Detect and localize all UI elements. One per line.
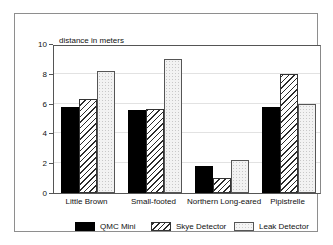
bar <box>195 166 213 193</box>
bar <box>280 74 298 193</box>
legend-item[interactable]: Leak Detector <box>234 219 309 233</box>
bar <box>164 59 182 193</box>
x-tick-label: Northern Long-eared <box>187 197 254 206</box>
bar <box>97 71 115 193</box>
legend-swatch-icon <box>75 222 95 231</box>
figure-frame: distance in meters 0246810 Little BrownS… <box>14 13 318 232</box>
y-axis: 0246810 <box>15 45 53 194</box>
x-tick-label: Little Brown <box>53 197 120 206</box>
legend-item[interactable]: QMC Mini <box>75 219 136 233</box>
y-tick-label: 6 <box>43 101 47 109</box>
legend-label: QMC Mini <box>100 222 136 231</box>
bar-group <box>188 46 255 193</box>
y-tick-label: 4 <box>43 130 47 138</box>
chart-figure: distance in meters 0246810 Little BrownS… <box>0 0 333 245</box>
plot-area <box>53 45 321 194</box>
y-tick-label: 2 <box>43 160 47 168</box>
legend-item[interactable]: Skye Detector <box>151 219 226 233</box>
x-axis-labels: Little BrownSmall-footedNorthern Long-ea… <box>53 197 321 211</box>
bar <box>61 107 79 193</box>
chart-legend: QMC MiniSkye DetectorLeak Detector <box>29 219 333 237</box>
bar <box>146 109 164 193</box>
y-tick-label: 8 <box>43 71 47 79</box>
legend-label: Leak Detector <box>259 222 309 231</box>
legend-swatch-icon <box>151 222 171 231</box>
bar-group <box>54 46 121 193</box>
bar-group <box>121 46 188 193</box>
y-tick-label: 0 <box>43 190 47 198</box>
bar-group <box>255 46 322 193</box>
legend-label: Skye Detector <box>176 222 226 231</box>
chart-title: distance in meters <box>59 36 124 45</box>
bar <box>128 110 146 193</box>
x-tick-label: Small-footed <box>120 197 187 206</box>
x-tick-label: Pipistrelle <box>254 197 321 206</box>
bar <box>213 178 231 193</box>
y-tick-label: 10 <box>38 41 47 49</box>
legend-swatch-icon <box>234 222 254 231</box>
bar <box>298 104 316 193</box>
bar <box>231 160 249 193</box>
bar <box>262 107 280 193</box>
bar <box>79 99 97 193</box>
